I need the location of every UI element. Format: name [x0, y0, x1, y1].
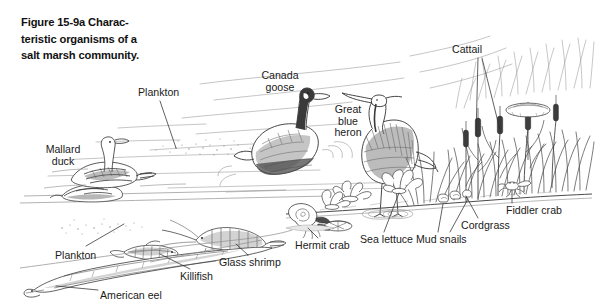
caption-line-3: salt marsh community. — [21, 49, 139, 61]
caption-line-1: Figure 15-9a Charac- — [21, 16, 129, 28]
caption-line-2: teristic organisms of a — [21, 33, 137, 45]
label-killifish: Killifish — [180, 271, 213, 283]
label-cattail: Cattail — [452, 44, 482, 56]
label-canada-goose-line-2: goose — [266, 81, 295, 93]
label-hermit-crab: Hermit crab — [295, 240, 350, 252]
label-great-blue-heron: Greatblueheron — [327, 104, 369, 139]
killifish-eye — [171, 251, 173, 253]
label-great-blue-heron-line-1: Great — [335, 103, 362, 115]
label-plankton-top: Plankton — [138, 87, 179, 99]
mud-snail-2 — [450, 191, 461, 199]
label-great-blue-heron-line-2: blue — [338, 115, 358, 127]
label-fiddler-crab: Fiddler crab — [506, 205, 562, 217]
figure-caption: Figure 15-9a Charac-teristic organisms o… — [21, 14, 196, 64]
mud-snail-1 — [438, 194, 449, 202]
label-canada-goose: Canadagoose — [250, 70, 310, 93]
mud-snail-3 — [463, 190, 472, 197]
label-canada-goose-line-1: Canada — [261, 69, 298, 81]
label-mud-snails: Mud snails — [416, 234, 467, 246]
label-american-eel: American eel — [100, 290, 162, 302]
american-eel-eye — [31, 290, 33, 292]
label-cordgrass: Cordgrass — [461, 220, 510, 232]
label-mallard-duck-line-1: Mallard — [46, 143, 81, 155]
figure-salt-marsh-community: Figure 15-9a Charac-teristic organisms o… — [0, 0, 595, 307]
label-sea-lettuce: Sea lettuce — [360, 234, 413, 246]
label-mallard-duck: Mallardduck — [28, 144, 98, 167]
label-great-blue-heron-line-3: heron — [334, 126, 361, 138]
label-plankton-bottom: Plankton — [55, 250, 96, 262]
label-mallard-duck-line-2: duck — [52, 155, 74, 167]
label-glass-shrimp: Glass shrimp — [219, 257, 281, 269]
